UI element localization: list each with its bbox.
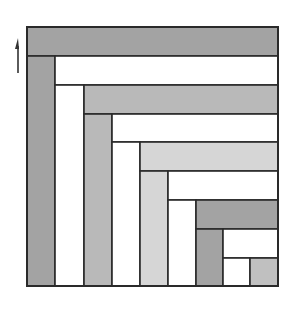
block-bar-4 (112, 114, 278, 142)
block-bar-7 (196, 200, 278, 229)
block-bar-3 (84, 85, 278, 114)
diagram-canvas (0, 0, 291, 310)
spiral-diagram (0, 0, 291, 310)
block-col-5 (140, 171, 168, 286)
block-bar-1 (27, 27, 278, 56)
block-col-3 (84, 114, 112, 286)
block-square (250, 258, 278, 286)
up-arrow-icon (15, 38, 19, 73)
block-col-7 (196, 229, 223, 286)
arrow-head (15, 38, 19, 49)
block-bar-2 (55, 56, 278, 85)
block-bar-6 (168, 171, 278, 200)
block-col-4 (112, 142, 140, 286)
block-col-1 (27, 56, 55, 286)
block-bar-8 (223, 229, 278, 258)
spiral-blocks (27, 27, 278, 286)
block-col-6 (168, 200, 196, 286)
block-col-2 (55, 85, 84, 286)
block-col-8 (223, 258, 250, 286)
block-bar-5 (140, 142, 278, 171)
